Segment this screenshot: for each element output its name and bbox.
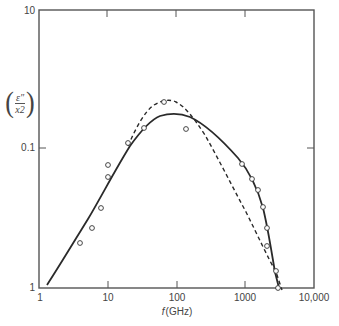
x-tick-label-1000: 1000 <box>234 292 257 303</box>
data-point <box>126 141 131 146</box>
y-tick-label-bottom: 1 <box>29 282 35 293</box>
data-point <box>142 126 147 131</box>
data-points <box>78 100 281 291</box>
y-axis-fraction: ε″ x2 <box>15 92 25 115</box>
x-ticks-bottom <box>108 281 245 288</box>
x-axis-title: f(GHz) <box>162 306 192 317</box>
data-point <box>162 100 167 105</box>
data-point <box>240 162 245 167</box>
data-point <box>276 286 281 291</box>
data-point <box>106 163 111 168</box>
x-tick-label-100: 100 <box>169 292 186 303</box>
y-axis-close-paren: ) <box>26 89 35 118</box>
data-point <box>106 175 111 180</box>
y-tick-label-mid: 0.1 <box>21 142 35 153</box>
y-axis-numerator: ε″ <box>15 92 25 104</box>
x-tick-label-10: 10 <box>102 292 114 303</box>
data-point <box>265 226 270 231</box>
x-tick-label-10000: 10,000 <box>299 292 330 303</box>
data-point <box>256 188 261 193</box>
data-point <box>274 269 279 274</box>
data-point <box>90 226 95 231</box>
y-axis-denominator: x2 <box>15 104 24 115</box>
plot-frame <box>39 10 314 288</box>
data-point <box>265 244 270 249</box>
data-point <box>261 205 266 210</box>
x-tick-label-1: 1 <box>37 292 43 303</box>
data-point <box>78 241 83 246</box>
chart-canvas: 10 0.1 1 1 10 100 1000 10,000 f(GHz) <box>0 0 339 326</box>
x-axis-unit: (GHz) <box>166 306 193 317</box>
x-ticks-top <box>107 10 245 17</box>
y-axis-title: ( ε″ x2 ) <box>2 86 38 120</box>
y-tick-label-top: 10 <box>24 5 36 16</box>
data-point <box>250 177 255 182</box>
data-point <box>184 127 189 132</box>
data-point <box>99 206 104 211</box>
y-axis-open-paren: ( <box>5 89 14 118</box>
solid-fit-curve <box>47 114 279 288</box>
